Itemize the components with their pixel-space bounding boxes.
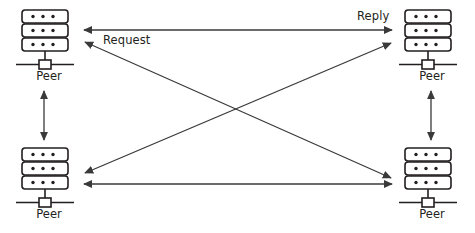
peer-icon-bottom-left[interactable] [16,148,74,207]
peer-label-top-right: Peer [397,69,467,83]
p2p-network-diagram: Request Reply Peer Peer Peer Peer [0,0,475,233]
server-stack-icon [405,148,451,189]
server-stack-icon [405,10,451,51]
server-stack-icon [22,10,68,51]
peer-label-bottom-right: Peer [397,207,467,221]
network-connector-icon [16,51,74,69]
server-stack-icon [22,148,68,189]
edges-group [44,30,431,184]
network-connector-icon [399,51,457,69]
peer-label-top-left: Peer [14,69,84,83]
edge-label-reply: Reply [357,9,389,23]
diagram-canvas [0,0,475,233]
network-connector-icon [16,189,74,207]
network-connector-icon [399,189,457,207]
peer-icon-top-left[interactable] [16,10,74,69]
peer-label-bottom-left: Peer [14,207,84,221]
peer-icon-bottom-right[interactable] [399,148,457,207]
peer-icon-top-right[interactable] [399,10,457,69]
edge-label-request: Request [103,33,150,47]
